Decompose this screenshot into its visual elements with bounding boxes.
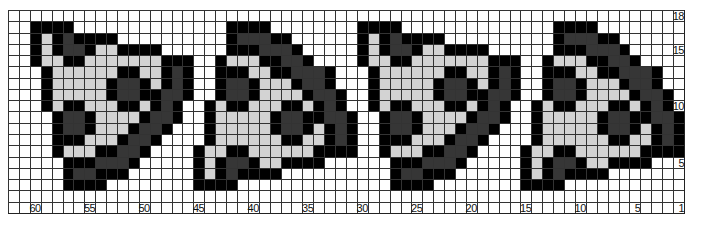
grid-cell xyxy=(597,33,608,44)
grid-cell xyxy=(346,66,357,77)
grid-cell xyxy=(73,134,84,145)
grid-cell xyxy=(673,179,684,190)
grid-cell xyxy=(368,145,379,156)
grid-cell xyxy=(259,78,270,89)
grid-cell xyxy=(270,10,281,21)
grid-cell xyxy=(477,145,488,156)
grid-cell xyxy=(542,168,553,179)
grid-cell xyxy=(193,33,204,44)
grid-cell xyxy=(161,190,172,201)
grid-cell xyxy=(444,190,455,201)
grid-cell xyxy=(597,78,608,89)
grid-cell xyxy=(510,78,521,89)
grid-cell xyxy=(19,134,30,145)
grid-cell xyxy=(553,111,564,122)
grid-cell xyxy=(433,55,444,66)
grid-cell xyxy=(106,111,117,122)
grid-cell xyxy=(204,33,215,44)
grid-cell xyxy=(106,33,117,44)
grid-cell xyxy=(411,10,422,21)
grid-cell xyxy=(117,134,128,145)
column-number-label: 45 xyxy=(193,203,204,214)
grid-cell xyxy=(477,168,488,179)
grid-cell xyxy=(553,134,564,145)
grid-cell: 55 xyxy=(84,202,95,213)
grid-cell xyxy=(248,157,259,168)
grid-cell xyxy=(499,145,510,156)
grid-cell xyxy=(433,44,444,55)
grid-cell xyxy=(52,157,63,168)
grid-cell xyxy=(84,111,95,122)
grid-cell xyxy=(182,21,193,32)
grid-cell xyxy=(204,168,215,179)
grid-cell xyxy=(390,202,401,213)
grid-cell xyxy=(335,134,346,145)
grid-cell xyxy=(488,10,499,21)
grid-cell xyxy=(597,179,608,190)
grid-cell xyxy=(226,134,237,145)
grid-cell xyxy=(30,134,41,145)
grid-cell xyxy=(346,55,357,66)
grid-cell xyxy=(575,100,586,111)
grid-cell xyxy=(41,145,52,156)
grid-cell xyxy=(488,190,499,201)
grid-cell xyxy=(106,89,117,100)
grid-cell xyxy=(128,66,139,77)
grid-cell xyxy=(259,10,270,21)
grid-cell xyxy=(161,66,172,77)
grid-cell xyxy=(270,100,281,111)
grid-cell xyxy=(510,66,521,77)
grid-cell xyxy=(608,66,619,77)
grid-cell xyxy=(172,10,183,21)
grid-cell xyxy=(237,89,248,100)
grid-cell xyxy=(106,157,117,168)
grid-cell xyxy=(291,21,302,32)
grid-cell xyxy=(335,66,346,77)
grid-cell xyxy=(172,44,183,55)
grid-cell xyxy=(401,89,412,100)
grid-cell xyxy=(73,44,84,55)
grid-cell xyxy=(346,190,357,201)
grid-cell xyxy=(357,111,368,122)
grid-cell xyxy=(499,21,510,32)
grid-cell xyxy=(226,202,237,213)
grid-cell xyxy=(608,168,619,179)
grid-cell xyxy=(84,55,95,66)
grid-cell xyxy=(237,179,248,190)
grid-cell xyxy=(8,111,19,122)
grid-cell xyxy=(52,55,63,66)
grid-cell xyxy=(542,123,553,134)
grid-cell xyxy=(455,100,466,111)
grid-cell xyxy=(248,123,259,134)
grid-cell xyxy=(357,190,368,201)
grid-cell xyxy=(248,134,259,145)
grid-cell xyxy=(390,100,401,111)
grid-cell xyxy=(499,89,510,100)
grid-cell xyxy=(226,89,237,100)
grid-cell xyxy=(324,179,335,190)
grid-cell xyxy=(324,66,335,77)
grid-cell xyxy=(608,55,619,66)
grid-cell xyxy=(281,33,292,44)
grid-cell xyxy=(510,145,521,156)
grid-cell xyxy=(531,157,542,168)
grid-cell xyxy=(182,134,193,145)
grid-cell xyxy=(8,134,19,145)
grid-cell xyxy=(520,55,531,66)
grid-cell xyxy=(422,190,433,201)
column-number-label: 60 xyxy=(29,203,40,214)
column-number-label: 55 xyxy=(84,203,95,214)
grid-cell xyxy=(673,55,684,66)
grid-cell xyxy=(433,179,444,190)
grid-cell xyxy=(41,78,52,89)
grid-cell xyxy=(357,10,368,21)
grid-cell xyxy=(95,100,106,111)
grid-cell xyxy=(619,111,630,122)
grid-cell xyxy=(291,145,302,156)
grid-cell xyxy=(510,33,521,44)
grid-cell xyxy=(520,111,531,122)
grid-cell xyxy=(520,33,531,44)
grid-cell xyxy=(106,179,117,190)
grid-cell xyxy=(84,134,95,145)
grid-cell xyxy=(150,78,161,89)
